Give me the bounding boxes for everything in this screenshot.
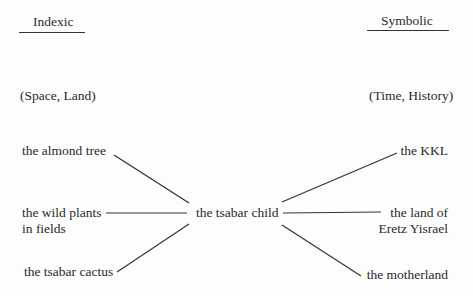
node-tsabar-cactus: the tsabar cactus: [24, 264, 113, 280]
edge-motherland: [282, 225, 361, 276]
node-tsabar-child: the tsabar child: [196, 205, 278, 221]
edge-land-of-eretz-yisrael: [283, 212, 381, 213]
node-land-line1: the land of: [378, 205, 448, 221]
node-kkl: the KKL: [400, 143, 448, 159]
node-wild-plants-line1: the wild plants: [22, 205, 102, 221]
node-motherland: the motherland: [367, 267, 448, 283]
node-wild-plants-line2: in fields: [22, 221, 102, 237]
node-land-line2: Eretz Yisrael: [378, 221, 448, 237]
edge-almond-tree: [114, 155, 189, 203]
node-wild-plants: the wild plants in fields: [22, 205, 102, 237]
edge-kkl: [282, 153, 397, 202]
node-land-of-eretz-yisrael: the land of Eretz Yisrael: [378, 205, 448, 237]
edge-tsabar-cactus: [117, 224, 189, 272]
node-almond-tree: the almond tree: [22, 143, 106, 159]
